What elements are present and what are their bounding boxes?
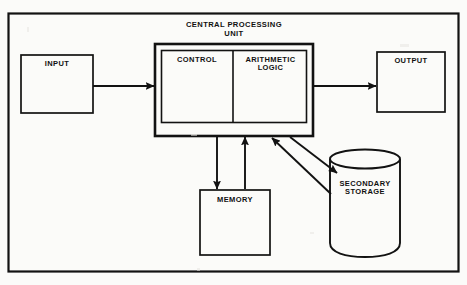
input-label: INPUT: [21, 60, 93, 68]
cpu-control-label: CONTROL: [161, 56, 233, 64]
storage-cylinder-body[interactable]: [330, 159, 400, 257]
cpu-title: CENTRAL PROCESSING UNIT: [174, 20, 294, 38]
diagram-canvas: CENTRAL PROCESSING UNIT INPUT CONTROL AR…: [0, 0, 467, 285]
cpu-alu-label: ARITHMETIC LOGIC: [234, 56, 307, 73]
secondary-storage-label: SECONDARY STORAGE: [330, 180, 400, 197]
arrow-cpu-to-storage: [290, 137, 337, 173]
output-label: OUTPUT: [377, 57, 445, 65]
memory-label: MEMORY: [200, 196, 270, 204]
storage-cylinder-top: [330, 150, 400, 169]
diagram-graphics: [0, 0, 467, 285]
